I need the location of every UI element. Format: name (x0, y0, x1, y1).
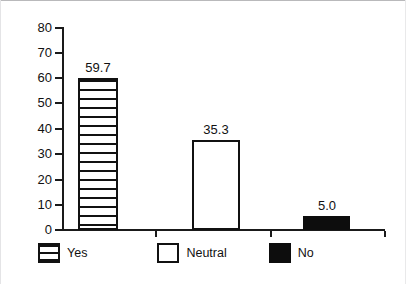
legend-item-yes: Yes (38, 243, 87, 263)
y-axis-label-30: 30 (12, 147, 52, 160)
bar-no (303, 216, 350, 230)
x-axis-tick-3 (384, 231, 386, 237)
bar-value-neutral: 35.3 (188, 123, 244, 136)
bar-value-yes: 59.7 (70, 61, 126, 74)
y-axis-tick-40 (55, 128, 62, 130)
legend-item-neutral: Neutral (157, 243, 226, 263)
y-axis-tick-30 (55, 153, 62, 155)
y-axis-label-80: 80 (12, 21, 52, 34)
y-axis-label-60: 60 (12, 71, 52, 84)
y-axis-tick-10 (55, 204, 62, 206)
y-axis-label-0: 0 (12, 223, 52, 236)
y-axis-tick-70 (55, 52, 62, 54)
bar-chart-figure: 80 70 60 50 40 30 20 10 0 59.7 35.3 5.0 … (0, 0, 406, 284)
legend-swatch-solid-icon (269, 243, 291, 263)
x-axis-tick-1 (155, 231, 157, 237)
bar-yes (78, 78, 118, 230)
chart-legend: Yes Neutral No (38, 240, 314, 266)
y-axis-tick-20 (55, 179, 62, 181)
legend-label-yes: Yes (67, 247, 87, 260)
y-axis-tick-50 (55, 102, 62, 104)
y-axis-label-70: 70 (12, 46, 52, 59)
y-axis-tick-0 (55, 229, 62, 231)
x-axis-tick-2 (270, 231, 272, 237)
y-axis-tick-60 (55, 77, 62, 79)
y-axis-label-20: 20 (12, 173, 52, 186)
y-axis-label-50: 50 (12, 96, 52, 109)
scan-border-left (0, 0, 1, 284)
scan-border-top (0, 0, 406, 1)
legend-label-neutral: Neutral (186, 247, 226, 260)
y-axis-tick-80 (55, 27, 62, 29)
y-axis-label-40: 40 (12, 122, 52, 135)
legend-label-no: No (298, 247, 314, 260)
bar-value-no: 5.0 (299, 199, 355, 212)
y-axis-label-10: 10 (12, 198, 52, 211)
legend-swatch-open-icon (157, 243, 179, 263)
legend-swatch-hatched-icon (38, 243, 60, 263)
bar-neutral (192, 140, 240, 230)
legend-item-no: No (269, 243, 314, 263)
y-axis-line (62, 27, 64, 231)
